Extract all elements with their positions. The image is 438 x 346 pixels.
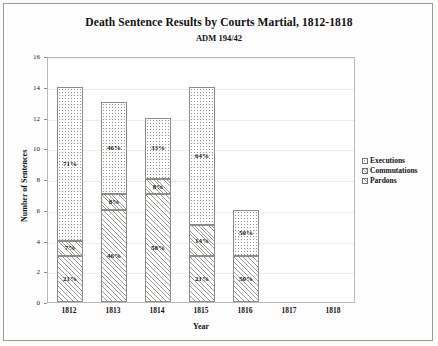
bar-segment-executions[interactable]: 50% [233, 210, 259, 256]
chart-title: Death Sentence Results by Courts Martial… [0, 16, 438, 28]
y-axis-tick-label: 8 [10, 176, 40, 184]
stacked-bar[interactable]: 50%50% [233, 210, 259, 302]
x-axis-tick-label: 1812 [47, 306, 91, 315]
y-axis-tick-mark [44, 88, 47, 89]
bar-segment-executions[interactable]: 64% [189, 87, 215, 225]
legend-label: Pardons [370, 176, 397, 185]
x-axis-tick-label: 1813 [91, 306, 135, 315]
x-axis-tick-label: 1815 [179, 306, 223, 315]
bar-segment-pardons[interactable]: 58% [145, 194, 171, 302]
bar-data-label: 50% [234, 274, 258, 284]
legend: ExecutionsCommutationsPardons [362, 156, 436, 186]
y-axis-tick-mark [44, 180, 47, 181]
bar-data-label: 8% [102, 197, 126, 207]
stacked-bar[interactable]: 58%8%33% [145, 118, 171, 303]
bar-data-label: 50% [234, 228, 258, 238]
bar-segment-pardons[interactable]: 50% [233, 256, 259, 302]
legend-swatch-icon [362, 178, 368, 184]
y-axis-tick-label: 0 [10, 299, 40, 307]
x-axis-tick-label: 1818 [311, 306, 355, 315]
stacked-bar[interactable]: 21%7%71% [57, 87, 83, 302]
bar-segment-commutations[interactable]: 8% [101, 194, 127, 209]
plot-area: 21%7%71%46%8%46%58%8%33%21%14%64%50%50% [47, 57, 355, 303]
y-axis-tick-label: 16 [10, 53, 40, 61]
bar-segment-executions[interactable]: 71% [57, 87, 83, 241]
bar-data-label: 58% [146, 243, 170, 253]
legend-item-executions[interactable]: Executions [362, 156, 436, 165]
legend-label: Commutations [370, 166, 418, 175]
bar-segment-pardons[interactable]: 46% [101, 210, 127, 302]
legend-swatch-icon [362, 168, 368, 174]
bar-segment-commutations[interactable]: 7% [57, 241, 83, 256]
y-axis-tick-mark [44, 119, 47, 120]
stacked-bar[interactable]: 46%8%46% [101, 102, 127, 302]
legend-label: Executions [370, 156, 405, 165]
bar-segment-executions[interactable]: 46% [101, 102, 127, 194]
bar-data-label: 21% [190, 274, 214, 284]
legend-swatch-icon [362, 158, 368, 164]
y-axis-tick-mark [44, 272, 47, 273]
bar-data-label: 8% [146, 182, 170, 192]
y-axis-tick-mark [44, 303, 47, 304]
bar-data-label: 46% [102, 143, 126, 153]
bar-segment-commutations[interactable]: 14% [189, 225, 215, 256]
y-axis-tick-label: 4 [10, 238, 40, 246]
bar-data-label: 46% [102, 251, 126, 261]
x-axis-tick-label: 1814 [135, 306, 179, 315]
y-axis-tick-label: 10 [10, 145, 40, 153]
x-axis-label: Year [0, 322, 402, 331]
bar-data-label: 64% [190, 151, 214, 161]
bar-segment-executions[interactable]: 33% [145, 118, 171, 180]
bar-data-label: 71% [58, 159, 82, 169]
y-axis-tick-mark [44, 57, 47, 58]
x-axis-tick-label: 1817 [267, 306, 311, 315]
y-axis-tick-label: 14 [10, 84, 40, 92]
y-axis-tick-mark [44, 211, 47, 212]
legend-item-pardons[interactable]: Pardons [362, 176, 436, 185]
bar-data-label: 33% [146, 143, 170, 153]
y-axis-tick-label: 6 [10, 207, 40, 215]
bar-data-label: 7% [58, 243, 82, 253]
bar-data-label: 21% [58, 274, 82, 284]
chart-subtitle: ADM 194/42 [0, 33, 438, 43]
stacked-bar[interactable]: 21%14%64% [189, 87, 215, 302]
y-axis-tick-mark [44, 149, 47, 150]
y-axis-tick-mark [44, 242, 47, 243]
y-axis-tick-label: 12 [10, 115, 40, 123]
chart-page: Death Sentence Results by Courts Martial… [0, 0, 438, 346]
x-axis-tick-label: 1816 [223, 306, 267, 315]
gridline [48, 58, 354, 59]
legend-item-commutations[interactable]: Commutations [362, 166, 436, 175]
bar-segment-pardons[interactable]: 21% [57, 256, 83, 302]
bar-segment-pardons[interactable]: 21% [189, 256, 215, 302]
bar-segment-commutations[interactable]: 8% [145, 179, 171, 194]
y-axis-tick-label: 2 [10, 268, 40, 276]
bar-data-label: 14% [190, 236, 214, 246]
